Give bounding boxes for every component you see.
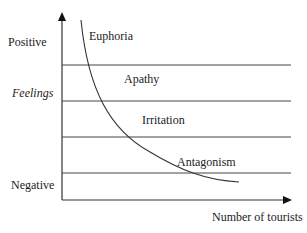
y-label-negative: Negative (11, 178, 54, 192)
x-axis-label: Number of tourists (212, 210, 303, 224)
stage-euphoria: Euphoria (89, 29, 133, 43)
y-axis-arrow-icon (58, 12, 66, 21)
x-axis-arrow-icon (283, 196, 292, 204)
stage-apathy: Apathy (124, 72, 159, 86)
y-label-positive: Positive (8, 35, 47, 49)
y-axis-label: Feelings (12, 86, 53, 100)
stage-irritation: Irritation (142, 113, 185, 127)
stage-antagonism: Antagonism (177, 155, 236, 169)
